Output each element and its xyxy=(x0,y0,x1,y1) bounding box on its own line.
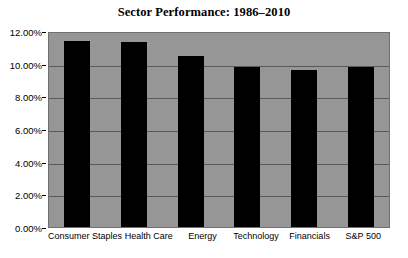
chart-title: Sector Performance: 1986–2010 xyxy=(0,5,408,20)
bars-container xyxy=(49,33,389,227)
x-axis-label: S&P 500 xyxy=(336,230,390,250)
bar-s-p-500[interactable] xyxy=(348,67,374,227)
bar-health-care[interactable] xyxy=(121,42,147,227)
bar-slot xyxy=(276,33,333,227)
x-axis-label: Energy xyxy=(176,230,230,250)
y-axis-tick-label: 8.00% xyxy=(15,92,42,103)
y-axis-tick-mark xyxy=(42,228,46,229)
y-axis-tick-mark xyxy=(42,97,46,98)
x-axis-label: Technology xyxy=(229,230,283,250)
y-axis: 0.00%2.00%4.00%6.00%8.00%10.00%12.00% xyxy=(0,32,46,228)
y-axis-tick-mark xyxy=(42,163,46,164)
bar-slot xyxy=(106,33,163,227)
bar-slot xyxy=(162,33,219,227)
y-axis-tick-label: 12.00% xyxy=(10,27,42,38)
y-axis-tick-mark xyxy=(42,32,46,33)
bar-consumer-staples[interactable] xyxy=(64,41,90,227)
y-axis-tick-mark xyxy=(42,65,46,66)
y-axis-tick-label: 2.00% xyxy=(15,190,42,201)
y-axis-tick-label: 4.00% xyxy=(15,157,42,168)
x-axis-label: Health Care xyxy=(122,230,176,250)
y-axis-tick-label: 6.00% xyxy=(15,125,42,136)
x-axis-label: Financials xyxy=(283,230,337,250)
bar-chart-figure: Sector Performance: 1986–2010 0.00%2.00%… xyxy=(0,0,408,258)
y-axis-tick-label: 0.00% xyxy=(15,223,42,234)
y-axis-tick-mark xyxy=(42,130,46,131)
bar-technology[interactable] xyxy=(234,67,260,227)
x-axis-label: Consumer Staples xyxy=(48,230,122,250)
bar-slot xyxy=(332,33,389,227)
bar-financials[interactable] xyxy=(291,70,317,227)
y-axis-tick-label: 10.00% xyxy=(10,59,42,70)
y-axis-tick-mark xyxy=(42,195,46,196)
x-axis: Consumer StaplesHealth CareEnergyTechnol… xyxy=(48,230,390,250)
bar-energy[interactable] xyxy=(178,56,204,228)
bar-slot xyxy=(49,33,106,227)
plot-area xyxy=(48,32,390,228)
bar-slot xyxy=(219,33,276,227)
